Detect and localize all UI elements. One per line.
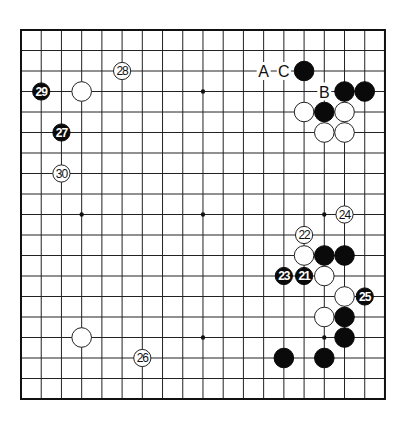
black-stone-icon: [335, 307, 355, 327]
white-stone-22: 22: [295, 226, 312, 243]
white-stone: [335, 287, 355, 307]
white-stone: [294, 102, 314, 122]
white-stone: [72, 82, 92, 102]
black-stone-icon: [335, 246, 355, 266]
star-point: [79, 212, 83, 216]
white-stone-icon: [72, 328, 92, 348]
black-stone-25: 25: [356, 288, 373, 305]
white-stone: [72, 328, 92, 348]
marker-label: A: [258, 63, 269, 80]
black-stone-23: 23: [275, 267, 292, 284]
black-stone-icon: [315, 102, 335, 122]
white-stone-28: 28: [114, 62, 131, 79]
white-stone: [294, 246, 314, 266]
black-stone-icon: [335, 82, 355, 102]
white-stone-icon: [315, 307, 335, 327]
move-number: 24: [339, 208, 352, 222]
white-stone-icon: [335, 287, 355, 307]
black-stone-icon: [335, 328, 355, 348]
move-number: 26: [137, 351, 150, 365]
white-stone-icon: [335, 102, 355, 122]
white-stone-icon: [315, 266, 335, 286]
black-stone-21: 21: [295, 267, 312, 284]
star-point: [322, 335, 326, 339]
black-stone: [315, 246, 335, 266]
move-number: 29: [36, 85, 49, 99]
white-stone-26: 26: [134, 349, 151, 366]
move-number: 23: [278, 269, 291, 283]
black-stone: [315, 348, 335, 368]
move-number: 21: [298, 269, 311, 283]
white-stone: [335, 123, 355, 143]
star-point: [201, 335, 205, 339]
move-number: 25: [359, 290, 372, 304]
white-stone: [315, 266, 335, 286]
white-stone-icon: [315, 123, 335, 143]
black-stone-29: 29: [33, 83, 50, 100]
move-number: 30: [56, 167, 69, 181]
move-number: 27: [56, 126, 69, 140]
marker-a: A: [257, 62, 271, 80]
move-number: 28: [116, 64, 129, 78]
marker-b: B: [317, 83, 331, 101]
marker-label: C: [278, 63, 290, 80]
black-stone: [315, 102, 335, 122]
go-board: ACB 21222324252627282930: [0, 0, 406, 428]
marker-c: C: [277, 62, 291, 80]
white-stone: [335, 102, 355, 122]
white-stone-icon: [335, 123, 355, 143]
black-stone: [274, 348, 294, 368]
black-stone-27: 27: [53, 124, 70, 141]
white-stone-icon: [294, 102, 314, 122]
white-stone-icon: [72, 82, 92, 102]
black-stone-icon: [315, 246, 335, 266]
white-stone-icon: [294, 246, 314, 266]
move-number: 22: [298, 228, 311, 242]
white-stone: [315, 307, 335, 327]
letter-markers: ACB: [257, 62, 332, 101]
black-stone-icon: [274, 348, 294, 368]
star-point: [201, 212, 205, 216]
black-stone: [335, 328, 355, 348]
black-stone-icon: [315, 348, 335, 368]
white-stone: [315, 123, 335, 143]
go-board-diagram: ACB 21222324252627282930: [0, 0, 406, 428]
star-point: [201, 89, 205, 93]
black-stone: [335, 246, 355, 266]
white-stone-30: 30: [53, 165, 70, 182]
black-stone: [294, 61, 314, 81]
black-stone-icon: [294, 61, 314, 81]
black-stone: [335, 307, 355, 327]
star-point: [322, 212, 326, 216]
white-stone-24: 24: [336, 206, 353, 223]
black-stone-icon: [355, 82, 375, 102]
black-stone: [355, 82, 375, 102]
black-stone: [335, 82, 355, 102]
marker-label: B: [319, 84, 330, 101]
